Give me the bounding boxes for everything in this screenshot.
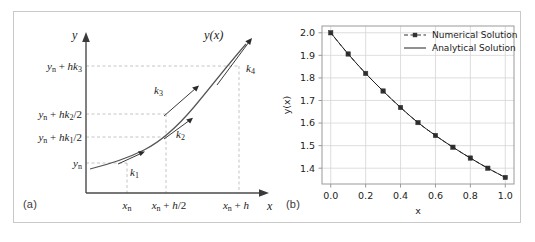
k4-label: k4 [246,62,255,76]
chart-x-axis-title: x [415,205,421,216]
solution-curve [90,44,246,169]
y-tick-label: 1.6 [300,117,315,128]
x-tick-xn-h: xn + h [222,199,250,213]
panel-b-solution-chart: 0.00.20.40.60.81.01.41.51.61.71.81.92.0x… [276,12,521,222]
panel-a-y-tick-labels: yn + hk3 yn + hk2/2 yn + hk1/2 yn [37,60,82,171]
y-tick-label: 1.4 [300,163,315,174]
chart-container: 0.00.20.40.60.81.01.41.51.61.71.81.92.0x… [276,12,521,222]
series-line [331,33,506,178]
y-tick-yn: yn [72,157,82,171]
axes [86,39,262,193]
legend-label: Numerical Solution [432,30,517,40]
guide-lines [86,66,239,193]
x-tick-xn-h2: xn + h/2 [151,199,187,213]
y-tick-label: 1.5 [300,140,315,151]
panel-a-x-tick-labels: xn xn + h/2 xn + h [122,199,250,213]
x-tick-label: 0.8 [463,190,478,201]
x-tick-label: 0.0 [323,190,338,201]
y-tick-label: 1.9 [300,50,315,61]
series-marker [503,175,507,179]
series-line [331,33,506,178]
x-tick-label: 0.4 [393,190,408,201]
y-tick-yn-hk2-half: yn + hk2/2 [37,108,82,122]
k1-label: k1 [130,166,139,180]
slope-arrow-k1 [118,151,145,164]
panel-a-x-axis-label: x [266,199,273,213]
chart-svg: 0.00.20.40.60.81.01.41.51.61.71.81.92.0x… [276,12,521,222]
x-tick-label: 0.6 [428,190,443,201]
x-tick-xn: xn [122,199,132,213]
x-tick-label: 1.0 [498,190,513,201]
panel-a-runge-kutta-diagram: y x y(x) yn + hk3 yn + hk2/2 yn + hk1/2 [14,12,275,222]
figure-frame: y x y(x) yn + hk3 yn + hk2/2 yn + hk1/2 [13,11,521,223]
legend-label: Analytical Solution [432,43,516,53]
figure-root: y x y(x) yn + hk3 yn + hk2/2 yn + hk1/2 [0,0,535,242]
y-tick-yn-hk3: yn + hk3 [46,60,82,74]
y-tick-yn-hk1-half: yn + hk1/2 [37,131,82,145]
panel-a-caption: (a) [23,198,37,210]
panel-a-curve-label: y(x) [202,28,223,42]
panel-a-k-labels: k1 k2 k3 k4 [130,62,255,180]
chart-tick-labels: 0.00.20.40.60.81.01.41.51.61.71.81.92.0 [300,27,513,201]
panel-a-svg: y x y(x) yn + hk3 yn + hk2/2 yn + hk1/2 [14,12,275,222]
y-tick-label: 2.0 [300,27,315,38]
chart-legend: Numerical SolutionAnalytical Solution [404,30,517,53]
y-axis-arrowhead [82,32,90,42]
panel-b-caption: (b) [286,198,300,210]
y-tick-label: 1.7 [300,95,315,106]
x-tick-label: 0.2 [358,190,373,201]
k3-label: k3 [154,84,163,98]
x-axis-arrowhead [259,189,269,197]
k2-label: k2 [176,128,185,142]
chart-series [331,33,506,178]
y-tick-label: 1.8 [300,72,315,83]
chart-y-axis-title: y(x) [281,96,292,115]
slope-arrow-k3 [164,85,199,116]
panel-a-y-axis-label: y [71,28,78,42]
legend-sample-marker [413,33,417,37]
